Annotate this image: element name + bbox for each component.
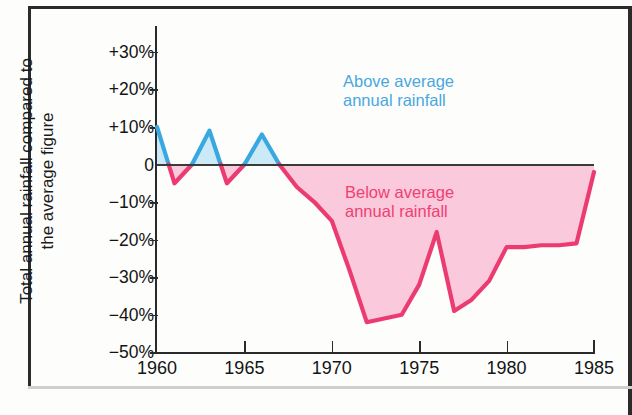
chart-plot-area (0, 0, 632, 415)
legend-below-average: Below average annual rainfall (345, 183, 454, 221)
zero-baseline (157, 164, 594, 166)
chart-figure: Total annual rainfall compared to the av… (0, 0, 632, 415)
legend-above-average: Above average annual rainfall (343, 72, 454, 110)
above-average-area (244, 134, 279, 164)
